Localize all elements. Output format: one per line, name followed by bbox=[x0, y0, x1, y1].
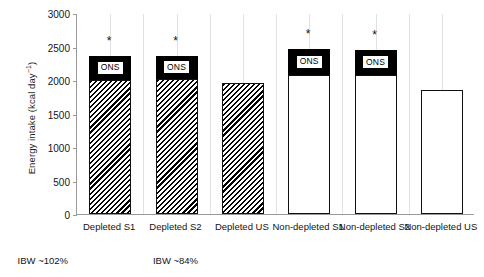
y-tick-mark bbox=[73, 14, 77, 15]
category-divider bbox=[210, 14, 211, 214]
category-divider bbox=[276, 14, 277, 214]
y-tick-label: 500 bbox=[10, 176, 70, 187]
bar-segment-plain bbox=[355, 75, 397, 214]
ons-segment-label: ONS bbox=[362, 55, 389, 69]
ons-segment-label: ONS bbox=[97, 61, 124, 75]
category-divider bbox=[342, 14, 343, 214]
y-tick-mark bbox=[73, 115, 77, 116]
y-tick-label: 2500 bbox=[10, 42, 70, 53]
bar: ONS bbox=[89, 56, 131, 214]
y-tick-label: 0 bbox=[10, 210, 70, 221]
ons-segment: ONS bbox=[89, 56, 131, 80]
y-tick-label: 1000 bbox=[10, 143, 70, 154]
group-label: IBW ~84% bbox=[153, 255, 198, 266]
ons-segment-label: ONS bbox=[163, 60, 190, 74]
bar bbox=[222, 83, 264, 214]
category-divider bbox=[143, 14, 144, 214]
chart-figure: Energy intake (kcal day−1) ONSONSONSONS … bbox=[0, 0, 484, 277]
bar-segment-plain bbox=[421, 90, 463, 214]
y-tick-mark bbox=[73, 182, 77, 183]
significance-marker: * bbox=[372, 29, 377, 41]
y-tick-label: 3000 bbox=[10, 9, 70, 20]
bar: ONS bbox=[355, 50, 397, 214]
y-tick-mark bbox=[73, 48, 77, 49]
y-tick-mark bbox=[73, 148, 77, 149]
y-tick-mark bbox=[73, 81, 77, 82]
bar-segment-hatched bbox=[156, 79, 198, 214]
bar-segment-hatched bbox=[89, 80, 131, 214]
y-tick-label: 1500 bbox=[10, 109, 70, 120]
category-divider bbox=[409, 14, 410, 214]
bar-segment-plain bbox=[288, 75, 330, 214]
bar bbox=[421, 90, 463, 214]
significance-marker: * bbox=[173, 35, 178, 47]
group-label: IBW ~102% bbox=[18, 255, 68, 266]
bar-segment-hatched bbox=[222, 83, 264, 214]
ons-segment: ONS bbox=[355, 50, 397, 75]
ons-segment-label: ONS bbox=[296, 55, 323, 69]
y-tick-mark bbox=[73, 215, 77, 216]
y-tick-label: 2000 bbox=[10, 76, 70, 87]
ons-segment: ONS bbox=[156, 56, 198, 80]
significance-marker: * bbox=[107, 35, 112, 47]
significance-marker: * bbox=[306, 28, 311, 40]
bar: ONS bbox=[288, 49, 330, 214]
x-tick-label: Non-depleted US bbox=[401, 222, 481, 233]
plot-area: ONSONSONSONS bbox=[76, 14, 474, 215]
ons-segment: ONS bbox=[288, 49, 330, 74]
bar: ONS bbox=[156, 56, 198, 214]
